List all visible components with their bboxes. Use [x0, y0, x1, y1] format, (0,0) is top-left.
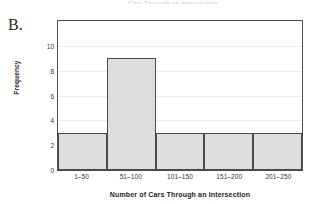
plot-area — [57, 20, 303, 171]
y-tick-label: 2 — [36, 142, 54, 149]
x-tick-label: 51–100 — [106, 173, 155, 183]
histogram-bar — [156, 133, 205, 170]
histogram-bar — [58, 133, 107, 170]
histogram-bar — [204, 133, 253, 170]
gridline — [58, 120, 302, 121]
histogram-bar — [107, 58, 156, 170]
x-axis-title: Number of Cars Through an Intersection — [57, 190, 303, 199]
gridline — [58, 71, 302, 72]
histogram-bar — [253, 133, 302, 170]
x-tick-label: 101–150 — [155, 173, 204, 183]
y-axis-title: Frequency — [13, 48, 20, 108]
y-tick-label: 10 — [36, 42, 54, 49]
x-tick-label: 151–200 — [205, 173, 254, 183]
y-tick-label: 6 — [36, 92, 54, 99]
x-tick-label: 1–50 — [57, 173, 106, 183]
x-axis-ticks: 1–5051–100101–150151–200201–250 — [57, 173, 303, 183]
gridline — [58, 96, 302, 97]
histogram-figure: Cars Through an Intersection B. Frequenc… — [0, 0, 309, 204]
y-axis-ticks: 0246810 — [33, 20, 54, 171]
y-tick-label: 4 — [36, 117, 54, 124]
x-tick-label: 201–250 — [254, 173, 303, 183]
part-label: B. — [8, 17, 23, 33]
y-tick-label: 0 — [36, 167, 54, 174]
gridline — [58, 46, 302, 47]
plot-inner — [58, 21, 302, 170]
cropped-title-remnant: Cars Through an Intersection — [118, 0, 228, 4]
y-tick-label: 8 — [36, 67, 54, 74]
